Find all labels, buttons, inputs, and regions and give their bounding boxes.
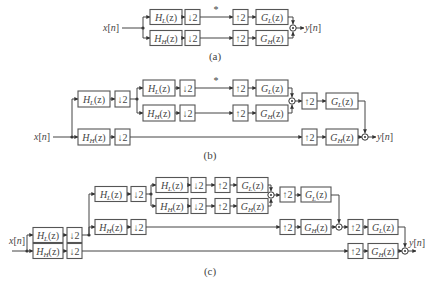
- up2-b1-bot: ↑2: [302, 129, 317, 145]
- GL-filter-c1: GL(z): [368, 220, 398, 236]
- svg-text:↓2: ↓2: [183, 83, 193, 94]
- signal-line: [358, 101, 365, 133]
- GL-filter-a: GL(z): [256, 10, 288, 26]
- down2-a-bot: ↓2: [185, 31, 200, 46]
- HH-filter-c1: HH(z): [33, 244, 63, 260]
- svg-text:↑2: ↑2: [218, 180, 228, 191]
- down2-c1-bot: ↓2: [67, 244, 82, 259]
- HL-filter-b2: HL(z): [143, 80, 175, 96]
- svg-text:↑2: ↑2: [236, 108, 246, 119]
- up2-c3-bot: ↑2: [215, 199, 230, 214]
- HL-filter-b1: HL(z): [78, 91, 110, 107]
- output-label-b: y[n]: [376, 131, 393, 142]
- up2-a-top: ↑2: [233, 10, 248, 25]
- svg-text:↑2: ↑2: [218, 201, 228, 212]
- signal-line: [72, 99, 78, 137]
- summation-node: [290, 25, 296, 31]
- GL-filter-b2: GL(z): [256, 80, 288, 96]
- GH-filter-c3: GH(z): [237, 199, 268, 215]
- svg-text:↓2: ↓2: [194, 201, 204, 212]
- HH-filter-c2: HH(z): [95, 220, 127, 236]
- svg-text:↓2: ↓2: [188, 33, 198, 44]
- signal-line: [151, 194, 156, 206]
- svg-text:↑2: ↑2: [283, 189, 293, 200]
- HL-filter-a: HL(z): [150, 10, 182, 26]
- GH-filter-a: GH(z): [256, 31, 288, 47]
- summation-node: [268, 192, 274, 198]
- down2-c3-bot: ↓2: [191, 199, 206, 214]
- up2-c1-bot: ↑2: [348, 244, 363, 259]
- svg-text:↓2: ↓2: [134, 189, 144, 200]
- down2-b1-bot: ↓2: [115, 129, 130, 145]
- signal-line: [288, 88, 292, 97]
- down2-c3-top: ↓2: [191, 178, 206, 193]
- HL-filter-c2: HL(z): [95, 187, 127, 203]
- HH-filter-c3: HH(z): [156, 199, 188, 215]
- svg-text:↑2: ↑2: [236, 12, 246, 23]
- input-label-b: x[n]: [33, 131, 50, 142]
- GH-filter-c2: GH(z): [301, 220, 331, 236]
- signal-line: [398, 227, 405, 247]
- down2-a-top: ↓2: [185, 10, 200, 25]
- svg-text:↓2: ↓2: [188, 12, 198, 23]
- svg-text:↑2: ↑2: [283, 222, 293, 233]
- svg-text:↑2: ↑2: [351, 222, 361, 233]
- HH-filter-b2: HH(z): [143, 105, 175, 121]
- signal-line: [143, 17, 150, 28]
- HL-filter-c1: HL(z): [33, 228, 63, 244]
- down2-c1-top: ↓2: [67, 228, 82, 243]
- summation-node: [289, 98, 295, 104]
- GL-filter-c3: GL(z): [237, 178, 268, 194]
- GL-filter-c2: GL(z): [301, 187, 331, 203]
- filter-bank-diagram: x[n]HL(z)HH(z)↓2↓2*↑2↑2GL(z)GH(z)y[n](a)…: [0, 0, 430, 285]
- up2-c2-top: ↑2: [280, 187, 295, 202]
- svg-text:↓2: ↓2: [118, 94, 128, 105]
- input-label-a: x[n]: [102, 22, 119, 33]
- asterisk-marker: *: [214, 4, 219, 15]
- up2-b2-bot: ↑2: [233, 105, 248, 121]
- signal-line: [288, 17, 293, 24]
- down2-b2-top: ↓2: [180, 80, 195, 96]
- GH-filter-b1: GH(z): [326, 129, 358, 145]
- caption-a: (a): [209, 50, 222, 63]
- down2-c2-top: ↓2: [131, 187, 146, 202]
- signal-line: [143, 28, 150, 38]
- signal-line: [137, 99, 143, 113]
- svg-text:↓2: ↓2: [134, 222, 144, 233]
- svg-text:↑2: ↑2: [236, 83, 246, 94]
- svg-text:↓2: ↓2: [70, 230, 80, 241]
- up2-c3-top: ↑2: [215, 178, 230, 193]
- svg-text:↓2: ↓2: [70, 246, 80, 257]
- svg-text:↑2: ↑2: [305, 96, 315, 107]
- down2-c2-bot: ↓2: [131, 220, 146, 235]
- output-label-c: y[n]: [408, 237, 425, 248]
- input-label-c: x[n]: [8, 235, 25, 246]
- signal-line: [89, 194, 95, 235]
- svg-text:↑2: ↑2: [351, 246, 361, 257]
- svg-text:↓2: ↓2: [194, 180, 204, 191]
- output-label-a: y[n]: [304, 22, 321, 33]
- svg-text:↑2: ↑2: [236, 33, 246, 44]
- HH-filter-b1: HH(z): [78, 129, 110, 145]
- summation-node: [336, 224, 342, 230]
- signal-line: [27, 235, 33, 251]
- up2-c2-bot: ↑2: [280, 220, 295, 235]
- svg-text:↓2: ↓2: [118, 132, 128, 143]
- svg-text:↓2: ↓2: [183, 108, 193, 119]
- summation-node: [402, 248, 408, 254]
- down2-b1-top: ↓2: [115, 91, 130, 107]
- HL-filter-c3: HL(z): [156, 178, 188, 194]
- HH-filter-a: HH(z): [150, 31, 182, 47]
- asterisk-marker-b: *: [214, 75, 219, 86]
- signal-line: [137, 88, 143, 99]
- signal-line: [331, 195, 339, 223]
- up2-b1-top: ↑2: [302, 93, 317, 109]
- GH-filter-c1: GH(z): [368, 244, 398, 260]
- up2-b2-top: ↑2: [233, 80, 248, 96]
- svg-text:↑2: ↑2: [305, 132, 315, 143]
- up2-c1-top: ↑2: [348, 220, 363, 235]
- caption-c: (c): [204, 265, 217, 278]
- GL-filter-b1: GL(z): [326, 93, 358, 109]
- up2-a-bot: ↑2: [233, 31, 248, 46]
- summation-node: [362, 134, 368, 140]
